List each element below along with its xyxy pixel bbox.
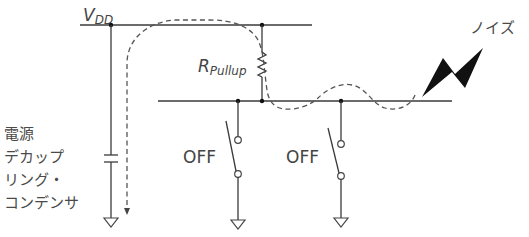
circuit-diagram: VDD RPullup OFF — [0, 0, 529, 237]
capacitor-label-line3: リング・ — [4, 171, 64, 189]
capacitor-label-line1: 電源 — [4, 125, 34, 143]
ground-icon — [104, 218, 118, 227]
noise-current-path — [127, 20, 415, 208]
ground-icon — [334, 218, 348, 227]
lightning-bolt-icon — [422, 48, 483, 97]
switch-right — [328, 101, 348, 227]
pullup-resistor — [258, 25, 266, 101]
junction-dot — [260, 99, 264, 103]
noise-label: ノイズ — [470, 19, 515, 37]
resistor-label: RPullup — [198, 56, 247, 78]
switch-left-state: OFF — [183, 147, 216, 167]
switch-right-state: OFF — [286, 147, 319, 167]
capacitor-label-line4: コンデンサ — [4, 194, 79, 212]
capacitor-label-line2: デカップ — [4, 148, 64, 166]
vdd-label: VDD — [83, 5, 113, 27]
switch-left — [226, 101, 245, 229]
arrow-head-icon — [124, 208, 130, 215]
decoupling-capacitor — [104, 25, 118, 227]
ground-icon — [231, 220, 245, 229]
